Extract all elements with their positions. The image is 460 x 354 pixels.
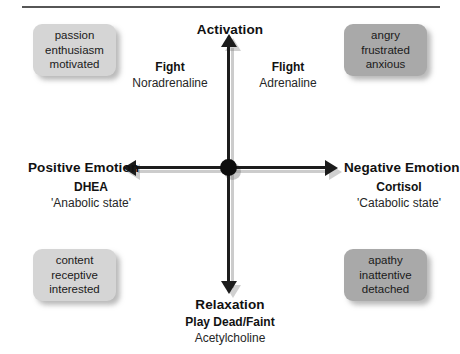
state-line: apathy (368, 253, 403, 268)
label-group-cortisol: Cortisol 'Catabolic state' (344, 180, 454, 211)
center-origin-dot (220, 159, 237, 176)
label-group-fight: Fight Noradrenaline (120, 60, 220, 91)
label-play-dead-sub: Acetylcholine (179, 331, 281, 346)
state-box-activated-negative: angry frustrated anxious (344, 24, 427, 76)
state-line: passion (55, 28, 95, 43)
label-cortisol-title: Cortisol (344, 180, 454, 195)
label-group-dhea: DHEA 'Anabolic state' (38, 180, 144, 211)
state-line: content (56, 253, 94, 268)
state-box-relaxed-positive: content receptive interested (33, 249, 116, 301)
state-box-activated-positive: passion enthusiasm motivated (33, 24, 116, 76)
emotion-quadrant-diagram: Activation Relaxation Positive Emotion N… (0, 0, 460, 354)
top-divider-rule (22, 6, 440, 8)
label-dhea-sub: 'Anabolic state' (38, 196, 144, 211)
state-line: interested (49, 282, 100, 297)
label-dhea-title: DHEA (38, 180, 144, 195)
state-line: motivated (50, 57, 100, 72)
state-line: enthusiasm (45, 43, 104, 58)
label-fight-sub: Noradrenaline (120, 76, 220, 91)
state-line: frustrated (361, 43, 410, 58)
label-fight-title: Fight (120, 60, 220, 75)
state-line: anxious (366, 57, 406, 72)
state-line: angry (371, 28, 400, 43)
axis-label-positive-emotion: Positive Emotion (28, 160, 139, 175)
right-arrowhead-icon (325, 160, 338, 176)
label-play-dead-title: Play Dead/Faint (179, 315, 281, 330)
axis-label-negative-emotion: Negative Emotion (344, 160, 460, 175)
label-group-flight: Flight Adrenaline (238, 60, 338, 91)
state-line: detached (362, 282, 409, 297)
label-cortisol-sub: 'Catabolic state' (344, 196, 454, 211)
label-flight-sub: Adrenaline (238, 76, 338, 91)
down-arrowhead-icon (221, 281, 237, 294)
state-line: receptive (51, 268, 98, 283)
state-line: inattentive (359, 268, 411, 283)
state-box-relaxed-negative: apathy inattentive detached (344, 249, 427, 301)
label-flight-title: Flight (238, 60, 338, 75)
label-group-play-dead-faint: Play Dead/Faint Acetylcholine (179, 315, 281, 346)
